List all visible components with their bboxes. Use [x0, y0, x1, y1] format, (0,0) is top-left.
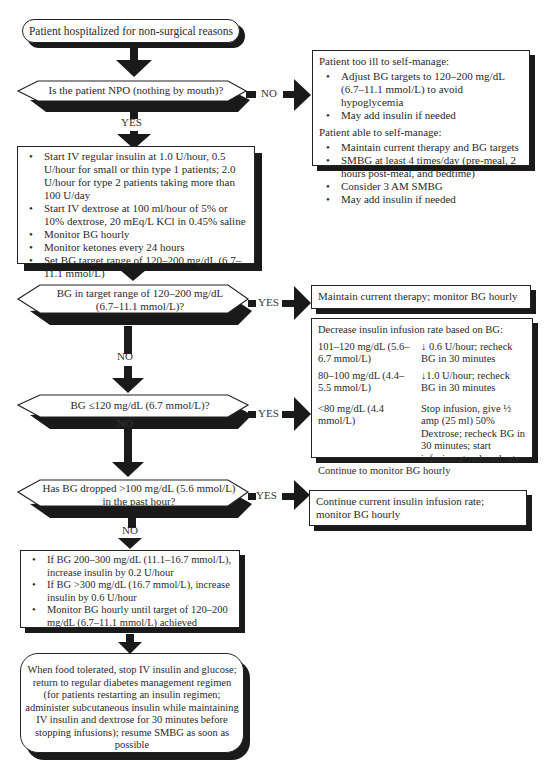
- low-yes-box: Decrease insulin infusion rate based on …: [311, 318, 533, 458]
- range-cell: <80 mg/dL (4.4 mmol/L): [318, 403, 413, 466]
- list-item: May add insulin if needed: [341, 109, 523, 122]
- list-item: Consider 3 AM SMBG: [341, 180, 523, 193]
- start-text: Patient hospitalized for non-surgical re…: [29, 25, 233, 37]
- able-list: Maintain current therapy and BG targets …: [319, 141, 523, 206]
- target-yes-text: Maintain current therapy; monitor BG hou…: [318, 290, 517, 302]
- connector-low-no-2: [124, 430, 132, 466]
- start-terminal: Patient hospitalized for non-surgical re…: [22, 19, 240, 43]
- arrowhead-right-icon: [294, 79, 312, 111]
- decision-npo-yes-label: YES: [121, 116, 142, 128]
- decision-drop-question: Has BG dropped >100 mg/dL (5.6 mmol/L) i…: [36, 482, 242, 508]
- npo-yes-box: Start IV regular insulin at 1.0 U/hour, …: [17, 146, 255, 264]
- decision-low-yes-label: YES: [258, 407, 279, 419]
- arrowhead-down-icon: [116, 60, 152, 78]
- question-line-1: Has BG dropped >100 mg/dL (5.6 mmol/L): [36, 482, 242, 495]
- question-line-2: (6.7–11.1 mmol/L)?: [40, 300, 240, 313]
- decision-target-question: BG in target range of 120–200 mg/dL (6.7…: [40, 287, 240, 313]
- list-item: Monitor ketones every 24 hours: [44, 241, 250, 254]
- end-terminal: When food tolerated, stop IV insulin and…: [20, 653, 244, 753]
- drop-no-box: If BG 200–300 mg/dL (11.1–16.7 mmol/L), …: [20, 550, 240, 628]
- range-cell: 101–120 mg/dL (5.6–6.7 mmol/L): [318, 341, 413, 366]
- too-ill-list: Adjust BG targets to 120–200 mg/dL (6.7–…: [319, 70, 523, 122]
- action-cell: ↓1.0 U/hour; recheck BG in 30 minutes: [421, 370, 526, 395]
- list-item: Start IV dextrose at 100 ml/hour of 5% o…: [44, 202, 250, 228]
- list-item: Monitor BG hourly: [44, 228, 250, 241]
- end-text: When food tolerated, stop IV insulin and…: [25, 664, 238, 750]
- connector-low-yes: [248, 411, 256, 418]
- npo-no-box: Patient too ill to self-manage: Adjust B…: [312, 50, 530, 166]
- low-yes-footer: Continue to monitor BG hourly: [318, 465, 526, 478]
- low-yes-header: Decrease insulin infusion rate based on …: [318, 324, 526, 337]
- decision-npo-no-label: NO: [261, 87, 277, 99]
- question-line-1: BG in target range of 120–200 mg/dL: [40, 287, 240, 300]
- arrowhead-right-icon: [294, 286, 312, 320]
- list-item: Start IV regular insulin at 1.0 U/hour, …: [44, 150, 250, 202]
- drop-yes-text: Continue current insulin infusion rate; …: [316, 495, 484, 520]
- arrowhead-right-icon: [294, 397, 312, 431]
- decision-npo-question: Is the patient NPO (nothing by mouth)?: [36, 84, 236, 97]
- npo-yes-list: Start IV regular insulin at 1.0 U/hour, …: [22, 150, 250, 280]
- decision-low-question: BG ≤120 mg/dL (6.7 mmol/L)?: [40, 399, 240, 412]
- list-item: May add insulin if needed: [341, 193, 523, 206]
- list-item: SMBG at least 4 times/day (pre-meal, 2 h…: [341, 154, 523, 180]
- insulin-adjustment-table: 101–120 mg/dL (5.6–6.7 mmol/L) ↓ 0.6 U/h…: [318, 341, 526, 466]
- range-cell: 80–100 mg/dL (4.4–5.5 mmol/L): [318, 370, 413, 395]
- connector-drop-yes: [248, 493, 256, 500]
- action-cell: Stop infusion, give ½ amp (25 ml) 50% De…: [421, 403, 526, 466]
- arrowhead-down-icon: [118, 538, 142, 550]
- list-item: Adjust BG targets to 120–200 mg/dL (6.7–…: [341, 70, 523, 109]
- drop-yes-box: Continue current insulin infusion rate; …: [309, 490, 527, 526]
- list-item: If BG 200–300 mg/dL (11.1–16.7 mmol/L), …: [47, 554, 235, 579]
- decision-target-yes-label: YES: [258, 296, 279, 308]
- decision-drop-no-label: NO: [122, 524, 138, 536]
- question-line-2: in the past hour?: [36, 495, 242, 508]
- list-item: Monitor BG hourly until target of 120–20…: [47, 604, 235, 629]
- decision-drop-yes-label: YES: [256, 489, 277, 501]
- drop-no-list: If BG 200–300 mg/dL (11.1–16.7 mmol/L), …: [25, 554, 235, 629]
- decision-target-no-label: NO: [117, 350, 133, 362]
- connector-target-yes: [248, 300, 256, 307]
- connector-npo-no: [246, 91, 256, 98]
- target-yes-box: Maintain current therapy; monitor BG hou…: [311, 285, 531, 309]
- list-item: Set BG target range of 120–200 mg/dL (6.…: [44, 254, 250, 280]
- action-cell: ↓ 0.6 U/hour; recheck BG in 30 minutes: [421, 341, 526, 366]
- able-header: Patient able to self-manage:: [319, 126, 523, 139]
- decision-low-no-label: NO: [117, 417, 133, 429]
- too-ill-header: Patient too ill to self-manage:: [319, 55, 523, 68]
- list-item: If BG >300 mg/dL (16.7 mmol/L), increase…: [47, 579, 235, 604]
- list-item: Maintain current therapy and BG targets: [341, 141, 523, 154]
